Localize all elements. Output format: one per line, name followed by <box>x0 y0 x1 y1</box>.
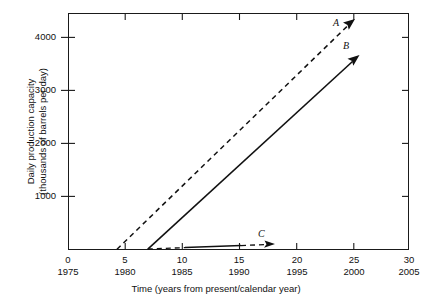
series-label-b: B <box>343 40 349 51</box>
series-b-line <box>148 62 353 250</box>
x-tick-calendar-1985: 1985 <box>162 267 202 277</box>
x-tick-calendar-2000: 2000 <box>334 267 374 277</box>
x-tick-label-20: 20 <box>277 255 317 265</box>
series-c-line <box>148 245 267 250</box>
x-tick-calendar-1980: 1980 <box>105 267 145 277</box>
y-axis-title-line1: Daily production capacity <box>25 12 37 252</box>
y-axis-ticks-left <box>68 37 75 196</box>
x-tick-calendar-1975: 1975 <box>48 267 88 277</box>
x-axis-title: Time (years from present/calendar year) <box>0 283 432 294</box>
y-axis-label-ticks <box>61 37 68 196</box>
series-a-line <box>117 26 348 250</box>
chart-figure: 4000 3000 2000 1000 0 5 10 15 20 25 30 1… <box>0 0 432 306</box>
x-tick-label-10: 10 <box>162 255 202 265</box>
x-tick-calendar-1990: 1990 <box>219 267 259 277</box>
y-axis-title: Daily production capacity (thousands of … <box>25 12 48 252</box>
series-label-a: A <box>333 17 339 28</box>
series-c-arrowhead <box>264 241 275 248</box>
x-tick-label-15: 15 <box>219 255 259 265</box>
x-tick-label-5: 5 <box>105 255 145 265</box>
y-axis-ticks-right <box>402 37 409 196</box>
x-tick-label-30: 30 <box>389 255 429 265</box>
series-label-c: C <box>258 228 265 239</box>
x-tick-calendar-2005: 2005 <box>389 267 429 277</box>
x-axis-ticks-top <box>125 13 354 20</box>
x-tick-label-0: 0 <box>48 255 88 265</box>
x-tick-calendar-1995: 1995 <box>277 267 317 277</box>
x-tick-label-25: 25 <box>334 255 374 265</box>
y-axis-title-line2: (thousands of barrels per day) <box>36 12 48 252</box>
